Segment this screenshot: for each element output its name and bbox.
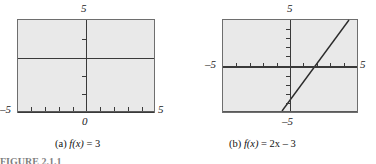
panel-a-x-tick: [59, 107, 60, 111]
figure-id-label: FIGURE 2.1.1: [0, 157, 61, 164]
panel-b-caption: (b) f(x) = 2x – 3: [229, 139, 296, 150]
panel-b-y-tick: [286, 94, 290, 95]
panel-a-x-tick: [31, 107, 32, 111]
panel-b-x-tick: [236, 63, 237, 67]
panel-b-x-tick: [303, 63, 304, 67]
panel-b-y-min-label: –5: [282, 116, 293, 127]
panel-a-x-tick: [45, 107, 46, 111]
panel-b-x-max-label: 5: [360, 59, 366, 70]
panel-a-x-tick: [73, 107, 74, 111]
panel-b-y-tick: [286, 29, 290, 30]
panel-a-y-max-label: 5: [81, 3, 87, 14]
panel-a-caption-arg: (x): [72, 138, 84, 149]
panel-b-plot-frame: [222, 19, 358, 113]
figure-container: 5 –5 5 0: [0, 0, 376, 164]
panel-a-y-tick: [82, 39, 86, 40]
panel-a-plot-frame: [17, 19, 155, 113]
panel-a-x-tick: [128, 107, 129, 111]
panel-a-y-tick: [82, 76, 86, 77]
panel-a-y-tick: [82, 94, 86, 95]
panel-a-x-tick: [142, 107, 143, 111]
panel-b-y-tick: [286, 85, 290, 86]
panel-b-x-tick: [250, 63, 251, 67]
panel-b-x-tick: [330, 63, 331, 67]
panel-a-x-min-label: –5: [0, 104, 11, 115]
panel-a-caption: (a) f(x) = 3: [55, 139, 100, 150]
panel-b-x-tick: [277, 63, 278, 67]
panel-b-y-tick: [286, 56, 290, 57]
panel-a-x-tick: [100, 107, 101, 111]
panel-a-x-axis: [18, 111, 154, 113]
panel-b-y-tick: [286, 103, 290, 104]
panel-b-y-axis: [290, 20, 291, 112]
panel-b-y-tick: [286, 47, 290, 48]
panel-b-x-tick: [317, 63, 318, 67]
panel-a-x-max-label: 5: [158, 104, 164, 115]
panel-b-x-tick: [344, 63, 345, 67]
panel-b-y-tick: [286, 38, 290, 39]
panel-a-origin-label: 0: [82, 116, 88, 127]
panel-b-x-tick: [263, 63, 264, 67]
panel-a-caption-prefix: (a): [55, 138, 67, 149]
panel-a-caption-eq: = 3: [86, 138, 100, 149]
panel-a-y-axis: [86, 20, 87, 112]
panel-b: 5: [188, 0, 376, 164]
panel-b-caption-eq: = 2x – 3: [261, 138, 296, 149]
panel-b-y-max-label: 5: [287, 3, 293, 14]
panel-a: 5 –5 5 0: [0, 0, 188, 164]
panel-b-caption-prefix: (b): [229, 138, 241, 149]
panel-b-x-min-label: –5: [205, 59, 216, 70]
panel-b-caption-arg: (x): [247, 138, 259, 149]
panel-b-y-tick: [286, 76, 290, 77]
panel-a-x-tick: [114, 107, 115, 111]
